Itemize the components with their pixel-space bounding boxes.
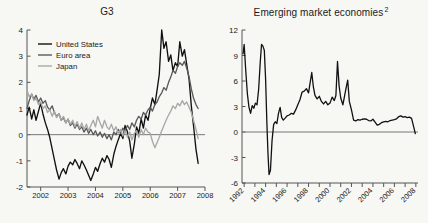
x-axis-tick-label: 2008	[197, 191, 214, 200]
x-axis-tick-label: 2004	[356, 186, 374, 204]
legend-label: United States	[56, 40, 103, 49]
y-axis-tick-label: 3	[19, 52, 24, 61]
legend-label: Euro area	[56, 51, 91, 60]
x-axis-tick-label: 2004	[87, 191, 104, 200]
x-axis-tick-label: 1996	[270, 186, 288, 204]
panel-g3: G3 -2-1012342002200320042005200620072008…	[0, 0, 214, 223]
y-axis-tick-label: 2	[19, 78, 24, 87]
y-axis-tick-label: 0	[234, 128, 239, 137]
x-axis-tick-label: 1992	[227, 186, 245, 204]
series-line-japan	[27, 90, 198, 148]
y-axis-tick-label: 4	[19, 26, 24, 35]
panel-eme: Emerging market economies2 -6-3036912199…	[214, 0, 428, 223]
y-axis-tick-label: 0	[19, 131, 24, 140]
y-axis-tick-label: 6	[234, 77, 239, 86]
chart-g3: -2-1012342002200320042005200620072008Uni…	[0, 0, 214, 223]
x-axis-tick-label: 2006	[378, 186, 396, 204]
chart-eme: -6-3036912199219941996199820002002200420…	[214, 0, 428, 223]
legend-label: Japan	[56, 62, 77, 71]
series-line-emerging-market-economies	[243, 44, 415, 174]
y-axis-tick-label: -2	[16, 183, 24, 192]
y-axis-tick-label: 1	[19, 105, 24, 114]
x-axis-tick-label: 2008	[399, 186, 417, 204]
series-line-united-states	[27, 30, 198, 180]
x-axis-tick-label: 2003	[60, 191, 77, 200]
x-axis-tick-label: 2007	[169, 191, 186, 200]
y-axis-tick-label: 9	[234, 52, 239, 61]
x-axis-tick-label: 2002	[32, 191, 49, 200]
x-axis-tick-label: 1994	[249, 186, 267, 204]
figure-container: G3 -2-1012342002200320042005200620072008…	[0, 0, 428, 223]
y-axis-tick-label: -1	[16, 157, 24, 166]
x-axis-tick-label: 2002	[335, 186, 353, 204]
y-axis-tick-label: 3	[234, 103, 239, 112]
x-axis-tick-label: 2000	[313, 186, 331, 204]
x-axis-tick-label: 2006	[142, 191, 159, 200]
y-axis-tick-label: -3	[231, 154, 239, 163]
x-axis-tick-label: 1998	[292, 186, 310, 204]
x-axis-tick-label: 2005	[115, 191, 132, 200]
y-axis-tick-label: 12	[229, 26, 238, 35]
